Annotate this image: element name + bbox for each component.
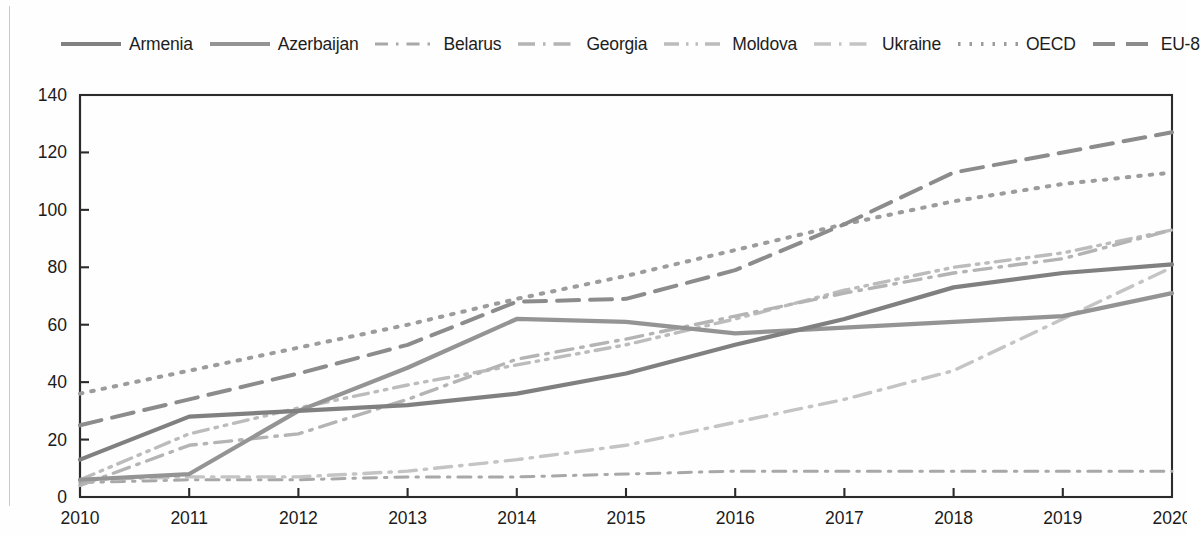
x-axis-tick-label: 2015	[607, 508, 646, 528]
x-axis-tick-label: 2017	[825, 508, 864, 528]
series-line-belarus	[80, 471, 1172, 482]
series-line-armenia	[80, 264, 1172, 459]
series-line-oecd	[80, 173, 1172, 394]
x-axis-tick-label: 2013	[388, 508, 427, 528]
x-axis-tick-label: 2012	[279, 508, 318, 528]
plot-frame	[80, 95, 1172, 497]
x-axis-tick-label: 2016	[716, 508, 755, 528]
x-axis-tick-label: 2020	[1153, 508, 1187, 528]
y-axis-tick-label: 0	[57, 487, 67, 507]
x-axis-tick-label: 2011	[170, 508, 208, 528]
y-axis-tick-label: 80	[48, 257, 68, 277]
y-axis-tick-label: 140	[38, 85, 67, 105]
x-axis-tick-label: 2010	[61, 508, 100, 528]
series-line-georgia	[80, 230, 1172, 486]
x-axis-tick-label: 2018	[934, 508, 973, 528]
y-axis-tick-label: 20	[48, 430, 68, 450]
y-axis-tick-label: 100	[38, 200, 67, 220]
x-axis-tick-label: 2019	[1043, 508, 1082, 528]
y-axis-tick-label: 120	[38, 142, 67, 162]
y-axis-tick-label: 40	[48, 372, 68, 392]
y-axis-tick-label: 60	[48, 315, 68, 335]
x-axis-tick-label: 2014	[497, 508, 536, 528]
